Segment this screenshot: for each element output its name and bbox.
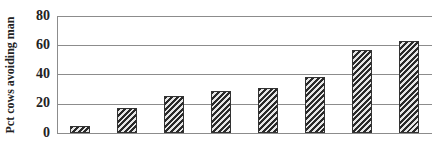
bar-1 (70, 126, 90, 133)
bar-2 (117, 108, 137, 133)
bar-6 (305, 77, 325, 133)
bar-7 (352, 50, 372, 133)
bar-8 (399, 41, 419, 133)
y-tick-80: 80 (28, 9, 50, 23)
bar-4 (211, 91, 231, 133)
y-axis-line (57, 16, 58, 134)
y-tick-0: 0 (28, 126, 50, 140)
y-tick-60: 60 (28, 38, 50, 52)
bar-5 (258, 88, 278, 133)
gridline-20 (57, 104, 432, 105)
gridline-80 (57, 16, 432, 17)
y-axis-label: Pct cows avoiding man (3, 17, 18, 134)
gridline-40 (57, 74, 432, 75)
y-tick-40: 40 (28, 67, 50, 81)
gridline-60 (57, 45, 432, 46)
bar-3 (164, 96, 184, 133)
x-axis-line (57, 133, 432, 134)
y-tick-20: 20 (28, 96, 50, 110)
